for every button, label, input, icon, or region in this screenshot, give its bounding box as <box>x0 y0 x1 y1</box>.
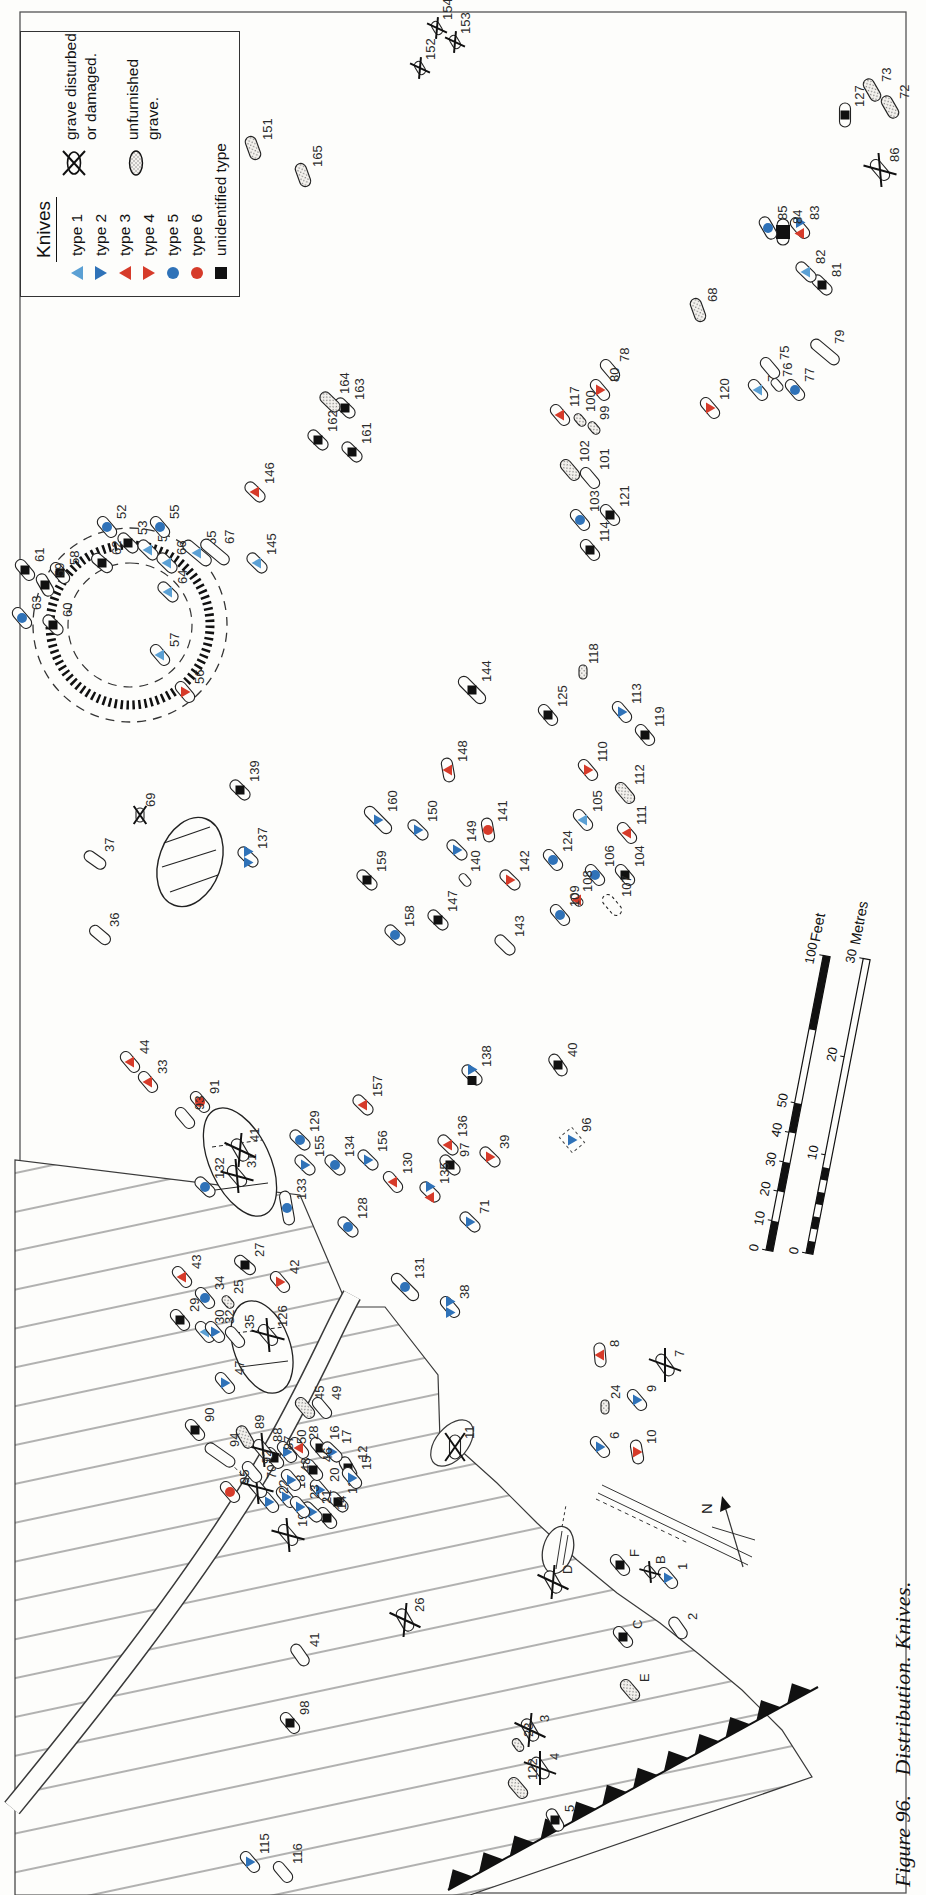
grave-label: 137 <box>255 827 270 849</box>
grave-marker: 118 <box>579 643 601 679</box>
grave-label: 111 <box>634 805 649 825</box>
grave-label: 41 <box>247 1128 262 1142</box>
grave-label: 75 <box>777 346 792 360</box>
grave-marker: 145 <box>243 533 279 577</box>
grave-marker: 107 <box>600 875 634 917</box>
grave-label: 68 <box>705 288 720 302</box>
grave-marker: 142 <box>497 850 532 893</box>
grave-label: 92 <box>259 1450 274 1464</box>
grave-marker: 72 <box>879 85 912 121</box>
page: N01020304050100Feet0102030Metres12345678… <box>0 0 926 1895</box>
grave-label: 7 <box>672 1350 687 1357</box>
grave-label: 93 <box>192 1096 207 1110</box>
grave-label: 81 <box>829 263 844 277</box>
grave-marker: 162 <box>305 410 340 453</box>
grave-label: 63 <box>29 596 44 610</box>
legend-title: Knives <box>33 197 57 262</box>
grave-label: 128 <box>355 1197 370 1219</box>
grave-label: 163 <box>352 378 367 400</box>
grave-label: 82 <box>813 250 828 264</box>
grave-label: 14 <box>334 1496 349 1510</box>
legend-item-label: type 6 <box>188 214 206 256</box>
grave-label: 115 <box>257 1833 272 1854</box>
grave-label: 43 <box>189 1255 204 1269</box>
grave-marker: 154 <box>427 0 455 39</box>
scale-tick: 30 <box>762 1151 779 1168</box>
grave-marker: 64 <box>154 570 190 606</box>
grave-marker: 120 <box>697 378 732 421</box>
grave-label: 84 <box>790 210 805 224</box>
grave-label: 6 <box>607 1432 622 1439</box>
grave-label: 50 <box>294 1430 309 1444</box>
grave-label: 4 <box>547 1753 562 1760</box>
grave-label: 140 <box>468 850 483 872</box>
grave-marker: 151 <box>244 118 275 161</box>
grave-label: 114 <box>597 521 612 542</box>
grave-marker: 158 <box>382 905 417 948</box>
grave-label: 73 <box>879 68 894 82</box>
grave-marker: 125 <box>535 685 570 728</box>
grave-marker: 38 <box>435 1285 472 1323</box>
grave-marker: 144 <box>455 660 494 706</box>
grave-label: 106 <box>602 845 617 867</box>
scale-tick: 0 <box>746 1243 762 1253</box>
scale-tick: 0 <box>786 1246 802 1256</box>
grave-label: 20 <box>327 1468 342 1482</box>
grave-label: 79 <box>832 330 847 344</box>
grave-marker: 39 <box>477 1135 512 1171</box>
legend-symbol-t6-icon <box>189 264 205 282</box>
grave-label: 160 <box>385 790 400 812</box>
grave-disturbed-icon <box>61 146 87 180</box>
grave-label: 26 <box>412 1598 427 1612</box>
grave-marker: 7 <box>649 1348 687 1382</box>
grave-marker: 127 <box>840 85 868 127</box>
grave-label: 122 <box>525 1758 540 1780</box>
grave-label: 8 <box>607 1340 622 1347</box>
grave-label: 33 <box>155 1060 170 1074</box>
grave-label: 142 <box>517 850 532 872</box>
grave-label: 15 <box>359 1456 374 1470</box>
grave-label: 55 <box>167 505 182 519</box>
grave-label: 10 <box>644 1430 659 1444</box>
grave-label: 129 <box>307 1110 322 1132</box>
scale-tick: 50 <box>774 1092 791 1109</box>
grave-label: 154 <box>440 0 455 20</box>
grave-label: 37 <box>102 838 117 852</box>
grave-marker: 157 <box>349 1075 385 1119</box>
grave-label: 130 <box>400 1152 415 1174</box>
grave-label: 103 <box>587 490 602 512</box>
grave-label: 150 <box>425 800 440 822</box>
grave-marker: 110 <box>575 741 610 783</box>
north-arrow: N <box>698 1496 755 1567</box>
grave-label: 53 <box>135 521 150 535</box>
legend-item-label: type 2 <box>92 214 110 256</box>
grave-label: 69 <box>143 793 158 807</box>
grave-label: 134 <box>342 1135 357 1157</box>
legend-disturbed-line2: or damaged. <box>81 33 101 140</box>
grave-label: 102 <box>577 440 592 462</box>
grave-label: 42 <box>287 1260 302 1274</box>
grave-marker: 131 <box>388 1257 427 1304</box>
grave-marker: 63 <box>9 596 44 632</box>
grave-label: 62 <box>109 541 124 555</box>
legend-item-uid: unidentified type <box>209 143 233 282</box>
legend-item-label: type 4 <box>140 214 158 256</box>
grave-label: 149 <box>464 820 479 842</box>
grave-label: 133 <box>294 1178 309 1200</box>
grave-label: 72 <box>897 85 912 99</box>
grave-label: 38 <box>457 1285 472 1299</box>
grave-label: 113 <box>629 683 644 704</box>
grave-label: 126 <box>275 1305 290 1327</box>
grave-marker: 150 <box>405 800 440 843</box>
grave-label: 99 <box>597 406 612 420</box>
figure-title: Distribution. Knives. <box>890 1581 915 1775</box>
grave-label: 3 <box>537 1715 552 1722</box>
grave-marker: 165 <box>294 145 325 188</box>
grave-label: 143 <box>512 915 527 937</box>
grave-label: 98 <box>297 1701 312 1715</box>
grave-label: C <box>630 1620 645 1629</box>
grave-marker: 156 <box>355 1130 390 1173</box>
grave-label: 5 <box>562 1805 577 1812</box>
grave-label: 158 <box>402 905 417 927</box>
grave-marker: 137 <box>232 827 270 873</box>
